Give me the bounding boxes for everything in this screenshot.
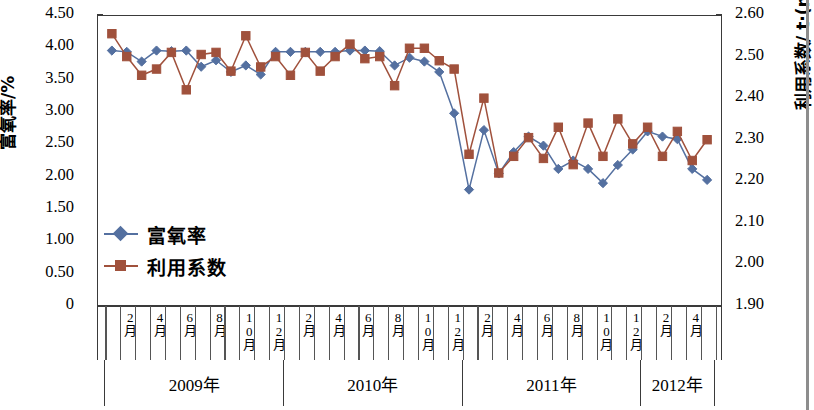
- series-utilization-coefficient: [108, 30, 712, 178]
- y-axis-right-title-prefix: 利用系数/ t·(m: [793, 0, 813, 110]
- legend-item-coefficient: 利用系数: [104, 250, 227, 282]
- x-axis-tick: [314, 306, 315, 360]
- diamond-marker-icon: [241, 61, 250, 70]
- x-axis-tick: [403, 306, 404, 360]
- diamond-marker-icon: [479, 126, 488, 135]
- square-marker-icon: [450, 65, 458, 73]
- x-axis-tick: [195, 306, 196, 360]
- x-axis-year-text: 2009年: [169, 371, 220, 396]
- diamond-marker-icon: [464, 185, 473, 194]
- x-axis-tick: [582, 306, 583, 360]
- square-marker-icon: [643, 123, 651, 131]
- y-axis-left-title: 富氧率/%: [0, 76, 19, 150]
- x-axis-month-label: 4月: [151, 310, 170, 336]
- x-axis-month-label: 8月: [210, 310, 229, 336]
- x-axis-month-band: 2月4月6月8月10月12月2月4月6月8月10月12月2月4月6月8月10月1…: [97, 306, 722, 360]
- square-marker-icon: [256, 63, 264, 71]
- y-left-tick-label: 4.50: [45, 5, 74, 22]
- y-right-tick-label: 2.00: [735, 254, 764, 271]
- square-marker-icon: [554, 123, 562, 131]
- x-axis-month-label: 6月: [537, 310, 556, 336]
- square-marker-icon: [614, 115, 622, 123]
- square-marker-icon: [658, 152, 666, 160]
- diamond-marker-icon: [107, 46, 116, 55]
- square-marker-icon: [390, 81, 398, 89]
- x-axis-tick: [701, 306, 702, 360]
- square-marker-icon: [212, 48, 220, 56]
- x-axis-year-text: 2012年: [652, 371, 703, 396]
- square-marker-icon: [242, 32, 250, 40]
- x-axis-month-label: 10月: [418, 310, 437, 350]
- square-marker-icon: [286, 71, 294, 79]
- legend: 富氧率 利用系数: [104, 218, 227, 282]
- square-marker-icon: [316, 67, 324, 75]
- square-marker-icon: [227, 67, 235, 75]
- diamond-marker-icon: [360, 46, 369, 55]
- x-axis-month-label: 10月: [597, 310, 616, 350]
- y-left-tick-label: 0: [66, 296, 74, 313]
- square-marker-icon: [703, 136, 711, 144]
- diamond-marker-icon: [450, 109, 459, 118]
- x-axis-tick: [463, 306, 464, 360]
- x-axis-month-label: 10月: [240, 310, 259, 350]
- x-axis-tick: [254, 306, 255, 360]
- square-marker-icon: [197, 50, 205, 58]
- x-axis-month-label: 2月: [299, 310, 318, 336]
- x-axis-year-band: 2009年2010年2011年2012年: [97, 360, 722, 406]
- square-marker-icon: [167, 48, 175, 56]
- legend-label-oxygen: 富氧率: [147, 221, 207, 248]
- square-marker-icon: [137, 71, 145, 79]
- diamond-marker-icon: [435, 67, 444, 76]
- y-right-tick-label: 2.40: [735, 88, 764, 105]
- x-axis-month-label: 12月: [627, 310, 646, 350]
- diamond-marker-icon: [658, 132, 667, 141]
- square-marker-icon: [495, 169, 503, 177]
- y-left-tick-label: 2.50: [45, 134, 74, 151]
- square-marker-icon: [688, 156, 696, 164]
- x-axis-year-text: 2010年: [347, 371, 398, 396]
- square-marker-icon: [301, 48, 309, 56]
- x-axis-tick: [522, 306, 523, 360]
- diamond-marker-icon: [420, 57, 429, 66]
- square-marker-icon: [123, 52, 131, 60]
- x-axis-tick: [611, 306, 612, 360]
- y-right-tick-label: 2.50: [735, 47, 764, 64]
- x-axis-month-label: 2月: [478, 310, 497, 336]
- page-edge-rule: [806, 0, 809, 410]
- square-marker-icon: [584, 119, 592, 127]
- x-axis-tick: [373, 306, 374, 360]
- y-left-tick-label: 1.00: [45, 231, 74, 248]
- x-axis-tick: [716, 306, 717, 360]
- y-left-tick-label: 3.00: [45, 102, 74, 119]
- y-right-tick-label: 2.30: [735, 130, 764, 147]
- y-right-tick-label: 2.10: [735, 213, 764, 230]
- y-right-tick-label: 2.60: [735, 5, 764, 22]
- x-axis-month-label: 6月: [359, 310, 378, 336]
- square-marker-icon: [152, 65, 160, 73]
- square-marker-icon: [115, 260, 126, 271]
- diamond-marker-icon: [113, 226, 129, 242]
- square-marker-icon: [331, 52, 339, 60]
- square-marker-icon: [271, 52, 279, 60]
- square-marker-icon: [182, 86, 190, 94]
- x-axis-tick: [552, 306, 553, 360]
- x-axis-tick: [433, 306, 434, 360]
- square-marker-icon: [435, 57, 443, 65]
- legend-swatch-coefficient: [104, 265, 138, 267]
- y-right-tick-label: 2.20: [735, 171, 764, 188]
- square-marker-icon: [524, 133, 532, 141]
- x-axis-month-label: 12月: [448, 310, 467, 350]
- x-axis-month-label: 12月: [270, 310, 289, 350]
- square-marker-icon: [673, 127, 681, 135]
- square-marker-icon: [539, 154, 547, 162]
- legend-swatch-oxygen: [104, 233, 138, 235]
- x-axis-month-label: 4月: [508, 310, 527, 336]
- diamond-marker-icon: [539, 141, 548, 150]
- square-marker-icon: [465, 150, 473, 158]
- x-axis-month-label: 2月: [656, 310, 675, 336]
- x-axis-tick: [284, 306, 285, 360]
- x-axis-year-label: 2009年: [104, 360, 283, 406]
- square-marker-icon: [599, 152, 607, 160]
- y-left-tick-label: 0.50: [45, 264, 74, 281]
- square-marker-icon: [361, 54, 369, 62]
